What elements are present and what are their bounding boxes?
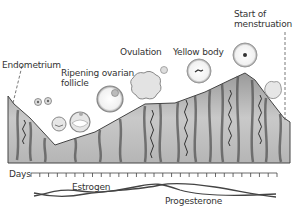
yellow-body-mature [233, 43, 257, 67]
regressing-body [265, 81, 282, 98]
menstrual-cycle-diagram [0, 0, 298, 209]
follicle-small-1 [35, 99, 42, 106]
estrogen-label: Estrogen [72, 182, 110, 192]
progesterone-label: Progesterone [165, 196, 222, 206]
ripening-follicle-label-line2: follicle [61, 78, 89, 88]
endometrium-label: Endometrium [2, 60, 61, 70]
start-menstruation-label-line1: Start of [234, 9, 266, 19]
yellow-body [187, 59, 211, 83]
yellow-body-label: Yellow body [173, 47, 224, 57]
start-menstruation-label-line2: menstruation [234, 19, 292, 29]
ripening-follicle-label-line1: Ripening ovarian [61, 68, 134, 78]
endometrium-pointer [13, 66, 22, 103]
follicle-growing-2 [70, 112, 90, 132]
days-label: Days [9, 169, 31, 179]
days-axis [31, 173, 277, 177]
follicle-small-2 [45, 98, 52, 105]
follicle-growing-1 [52, 117, 66, 131]
ovulation-follicle [131, 67, 168, 100]
follicle-ripening [97, 86, 123, 112]
ovulation-label: Ovulation [120, 47, 162, 57]
